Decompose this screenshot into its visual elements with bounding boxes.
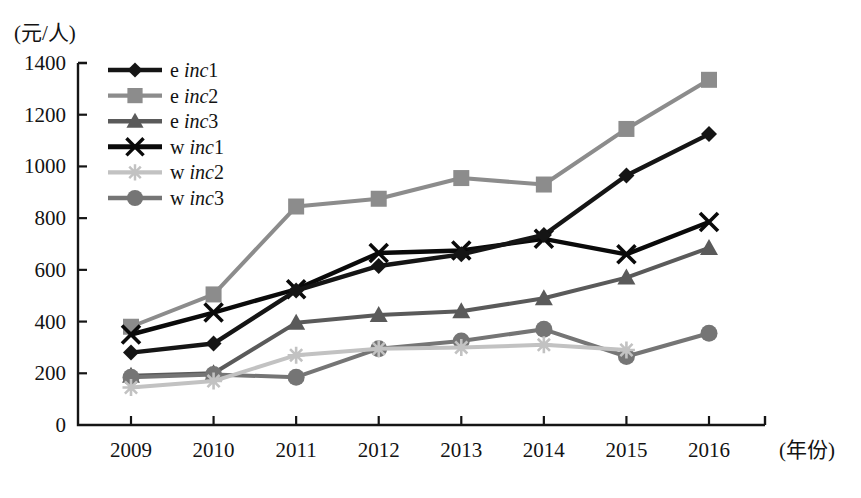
marker-square <box>701 72 717 88</box>
marker-square <box>536 177 552 193</box>
marker-square <box>618 121 634 137</box>
marker-square <box>288 199 304 215</box>
y-tick-label: 1200 <box>24 103 66 127</box>
marker-circle <box>701 325 718 342</box>
legend-item-e-inc1[interactable]: e inc1 <box>108 59 218 81</box>
marker-asterisk <box>453 339 470 356</box>
y-tick-label: 600 <box>35 258 67 282</box>
marker-asterisk <box>535 336 552 353</box>
y-tick-label: 1400 <box>24 51 66 75</box>
legend: e inc1e inc2e inc3w inc1w inc2w inc3 <box>108 59 224 209</box>
x-tick-label: 2010 <box>193 438 235 462</box>
marker-circle <box>127 190 143 206</box>
marker-diamond <box>123 345 139 361</box>
legend-item-label: w inc3 <box>170 187 224 209</box>
marker-square <box>453 170 469 186</box>
y-tick-label: 1000 <box>24 154 66 178</box>
x-tick-label: 2011 <box>276 438 317 462</box>
marker-asterisk <box>618 342 635 359</box>
legend-item-label: e inc2 <box>170 85 218 107</box>
x-tick-label: 2016 <box>688 438 730 462</box>
marker-square <box>127 88 142 103</box>
y-tick-label: 800 <box>35 206 67 230</box>
marker-circle <box>288 369 305 386</box>
x-tick-label: 2013 <box>440 438 482 462</box>
marker-circle <box>535 321 552 338</box>
x-tick-label: 2012 <box>358 438 400 462</box>
legend-item-e-inc2[interactable]: e inc2 <box>108 85 218 107</box>
y-tick-label: 0 <box>56 413 67 437</box>
x-tick-label: 2014 <box>523 438 566 462</box>
legend-item-e-inc3[interactable]: e inc3 <box>108 110 218 132</box>
y-tick-label: 200 <box>35 361 67 385</box>
legend-item-label: w inc1 <box>170 136 224 158</box>
marker-diamond <box>127 62 142 77</box>
marker-triangle <box>700 239 718 255</box>
legend-item-label: e inc1 <box>170 59 218 81</box>
marker-asterisk <box>205 373 222 390</box>
legend-item-w-inc3[interactable]: w inc3 <box>108 187 224 209</box>
x-axis-unit-label: (年份) <box>779 438 835 462</box>
marker-asterisk <box>288 347 305 364</box>
marker-asterisk <box>127 164 143 180</box>
marker-square <box>206 286 222 302</box>
marker-diamond <box>701 126 717 142</box>
x-tick-label: 2009 <box>110 438 152 462</box>
legend-item-label: w inc2 <box>170 161 224 183</box>
legend-item-label: e inc3 <box>170 110 218 132</box>
marker-asterisk <box>370 340 387 357</box>
marker-cross <box>700 213 718 231</box>
marker-square <box>371 191 387 207</box>
chart-container: 0200400600800100012001400200920102011201… <box>0 0 861 498</box>
y-axis-unit-label: (元/人) <box>14 21 76 45</box>
legend-item-w-inc1[interactable]: w inc1 <box>108 136 224 158</box>
y-tick-label: 400 <box>35 310 67 334</box>
x-tick-label: 2015 <box>605 438 647 462</box>
line-chart: 0200400600800100012001400200920102011201… <box>0 0 861 498</box>
marker-asterisk <box>123 379 140 396</box>
legend-item-w-inc2[interactable]: w inc2 <box>108 161 224 183</box>
